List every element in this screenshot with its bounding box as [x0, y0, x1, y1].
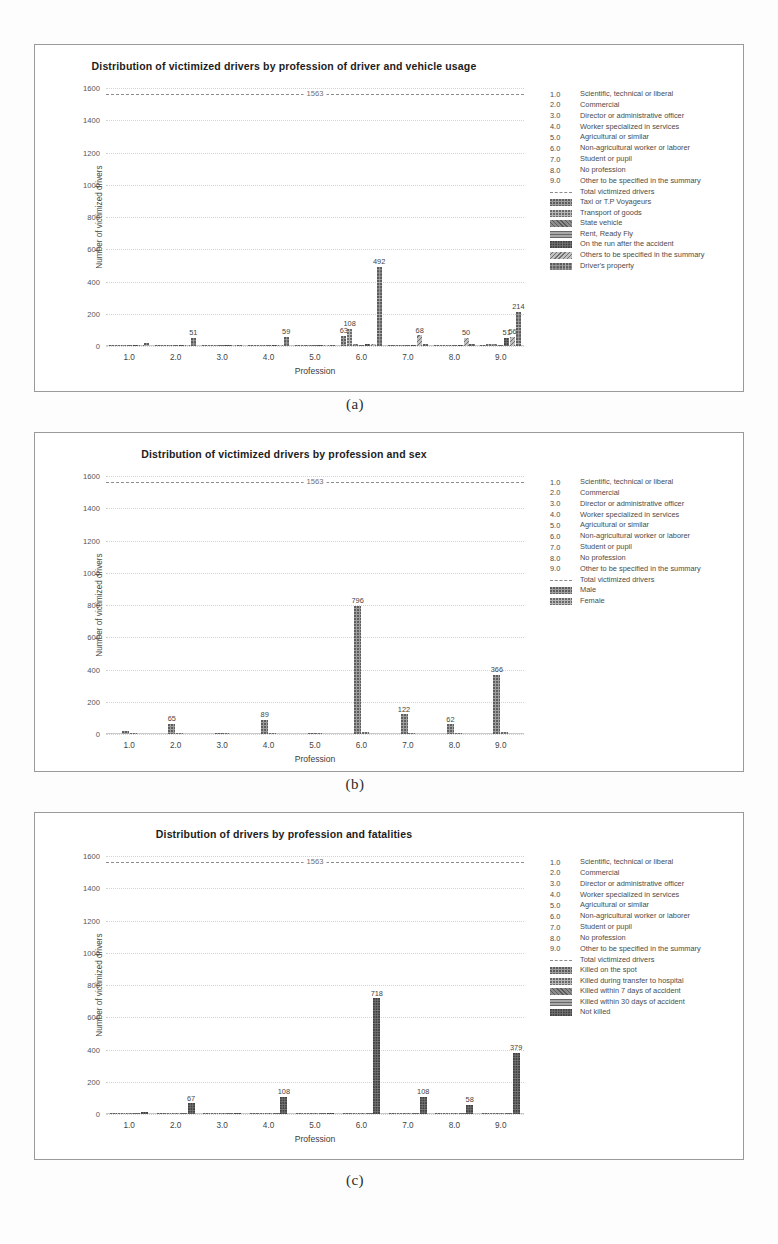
bar[interactable]: [155, 345, 160, 346]
bar[interactable]: [248, 345, 253, 346]
bar[interactable]: [458, 345, 463, 346]
bar[interactable]: [365, 344, 370, 346]
bar[interactable]: 62: [447, 724, 454, 734]
bar[interactable]: [250, 1113, 257, 1114]
bar[interactable]: [319, 1113, 326, 1114]
bar[interactable]: [366, 1113, 373, 1114]
bar[interactable]: 108: [420, 1097, 427, 1114]
bar[interactable]: 50: [464, 338, 469, 346]
bar[interactable]: [121, 345, 126, 346]
bar[interactable]: [312, 345, 317, 346]
bar[interactable]: [482, 1113, 489, 1114]
bar[interactable]: [167, 345, 172, 346]
bar[interactable]: [498, 345, 503, 346]
bar[interactable]: [260, 345, 265, 346]
bar[interactable]: [110, 1113, 117, 1114]
bar[interactable]: [237, 345, 242, 346]
bar[interactable]: [459, 1113, 466, 1114]
bar[interactable]: [215, 733, 222, 734]
bar[interactable]: [109, 345, 114, 346]
bar[interactable]: [330, 345, 335, 346]
bar[interactable]: [144, 343, 149, 346]
bar[interactable]: 59: [284, 337, 289, 347]
bar[interactable]: [350, 1113, 357, 1114]
bar[interactable]: [327, 1113, 334, 1114]
bar[interactable]: [501, 732, 508, 734]
bar[interactable]: [173, 345, 178, 346]
bar[interactable]: [451, 1113, 458, 1114]
bar[interactable]: [443, 1113, 450, 1114]
bar[interactable]: 63: [341, 336, 346, 346]
bar[interactable]: 56: [510, 337, 515, 346]
bar[interactable]: [185, 345, 190, 346]
bar[interactable]: [408, 733, 415, 734]
bar[interactable]: [304, 1113, 311, 1114]
bar[interactable]: [122, 731, 129, 734]
bar[interactable]: [203, 1113, 210, 1114]
bar[interactable]: [397, 1113, 404, 1114]
bar[interactable]: [440, 345, 445, 346]
bar[interactable]: [497, 1113, 504, 1114]
bar[interactable]: [480, 345, 485, 346]
bar[interactable]: [353, 344, 358, 346]
bar[interactable]: [505, 1113, 512, 1114]
bar[interactable]: [138, 345, 143, 346]
bar[interactable]: [434, 345, 439, 346]
bar[interactable]: [388, 345, 393, 346]
bar[interactable]: 214: [516, 312, 521, 347]
bar[interactable]: 366: [493, 675, 500, 734]
bar[interactable]: 65: [168, 724, 175, 734]
bar[interactable]: [412, 1113, 419, 1114]
bar[interactable]: [214, 345, 219, 346]
bar[interactable]: [179, 345, 184, 346]
bar[interactable]: [211, 1113, 218, 1114]
bar[interactable]: 58: [466, 1105, 473, 1114]
bar[interactable]: 108: [347, 329, 352, 346]
bar[interactable]: [435, 1113, 442, 1114]
bar[interactable]: [301, 345, 306, 346]
bar[interactable]: [272, 345, 277, 346]
bar[interactable]: [254, 345, 259, 346]
bar[interactable]: 67: [188, 1103, 195, 1114]
bar[interactable]: [118, 1113, 125, 1114]
bar[interactable]: [452, 345, 457, 346]
bar[interactable]: [219, 1113, 226, 1114]
bar[interactable]: [273, 1113, 280, 1114]
bar[interactable]: [208, 345, 213, 346]
bar[interactable]: [130, 733, 137, 734]
bar[interactable]: [306, 345, 311, 346]
bar[interactable]: [446, 345, 451, 346]
bar[interactable]: [296, 1113, 303, 1114]
bar[interactable]: [226, 1113, 233, 1114]
bar[interactable]: [219, 345, 224, 346]
bar[interactable]: [371, 344, 376, 346]
bar[interactable]: 51: [191, 338, 196, 346]
bar[interactable]: [164, 1113, 171, 1114]
bar[interactable]: [399, 345, 404, 346]
bar[interactable]: [358, 1113, 365, 1114]
bar[interactable]: [324, 345, 329, 346]
bar[interactable]: 51: [504, 338, 509, 346]
bar[interactable]: [231, 345, 236, 346]
bar[interactable]: 796: [354, 606, 361, 734]
bar[interactable]: [295, 345, 300, 346]
bar[interactable]: [234, 1113, 241, 1114]
bar[interactable]: 122: [401, 714, 408, 734]
bar[interactable]: [222, 733, 229, 734]
bar[interactable]: [469, 344, 474, 346]
bar[interactable]: [266, 345, 271, 346]
bar[interactable]: [405, 345, 410, 346]
bar[interactable]: [318, 345, 323, 346]
bar[interactable]: [180, 1113, 187, 1114]
bar[interactable]: [202, 345, 207, 346]
bar[interactable]: [492, 344, 497, 346]
bar[interactable]: [133, 1113, 140, 1114]
bar[interactable]: [115, 345, 120, 346]
bar[interactable]: [455, 733, 462, 734]
bar[interactable]: [126, 1113, 133, 1114]
bar[interactable]: [127, 345, 132, 346]
bar[interactable]: 379: [513, 1053, 520, 1114]
bar[interactable]: [265, 1113, 272, 1114]
bar[interactable]: [278, 345, 283, 346]
bar[interactable]: [362, 732, 369, 734]
